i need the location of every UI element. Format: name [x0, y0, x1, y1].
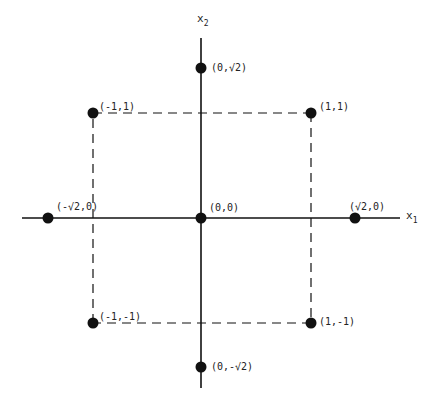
point-p-m1-m1: (-1,-1)	[88, 311, 142, 329]
point-dot	[196, 63, 207, 74]
point-label: (0,0)	[209, 202, 239, 213]
point-dot	[43, 213, 54, 224]
point-label: (-√2,0)	[56, 201, 98, 212]
point-label: (1,1)	[319, 101, 349, 112]
x2-axis-label: x2	[197, 12, 209, 28]
point-dot	[350, 213, 361, 224]
point-dot	[306, 108, 317, 119]
diagram-canvas: x1 x2 (0,√2)(-1,1)(1,1)(-√2,0)(0,0)(√2,0…	[0, 0, 439, 406]
point-p-m1-1: (-1,1)	[88, 101, 136, 119]
point-label: (√2,0)	[349, 201, 385, 212]
point-p-1-m1: (1,-1)	[306, 316, 356, 329]
point-dot	[306, 318, 317, 329]
point-p-0-0: (0,0)	[196, 202, 240, 224]
x1-axis-label: x1	[406, 209, 418, 225]
point-label: (0,-√2)	[211, 361, 253, 372]
point-label: (0,√2)	[211, 62, 247, 73]
point-dot	[88, 318, 99, 329]
point-label: (-1,1)	[99, 101, 135, 112]
point-dot	[196, 213, 207, 224]
point-p-0-sqrt2: (0,√2)	[196, 62, 248, 74]
point-label: (1,-1)	[319, 316, 355, 327]
point-dot	[196, 362, 207, 373]
point-p-msqrt2-0: (-√2,0)	[43, 201, 99, 224]
point-p-sqrt2-0: (√2,0)	[349, 201, 385, 224]
point-p-0-msqrt2: (0,-√2)	[196, 361, 254, 373]
point-p-1-1: (1,1)	[306, 101, 350, 119]
point-label: (-1,-1)	[99, 311, 141, 322]
point-dot	[88, 108, 99, 119]
